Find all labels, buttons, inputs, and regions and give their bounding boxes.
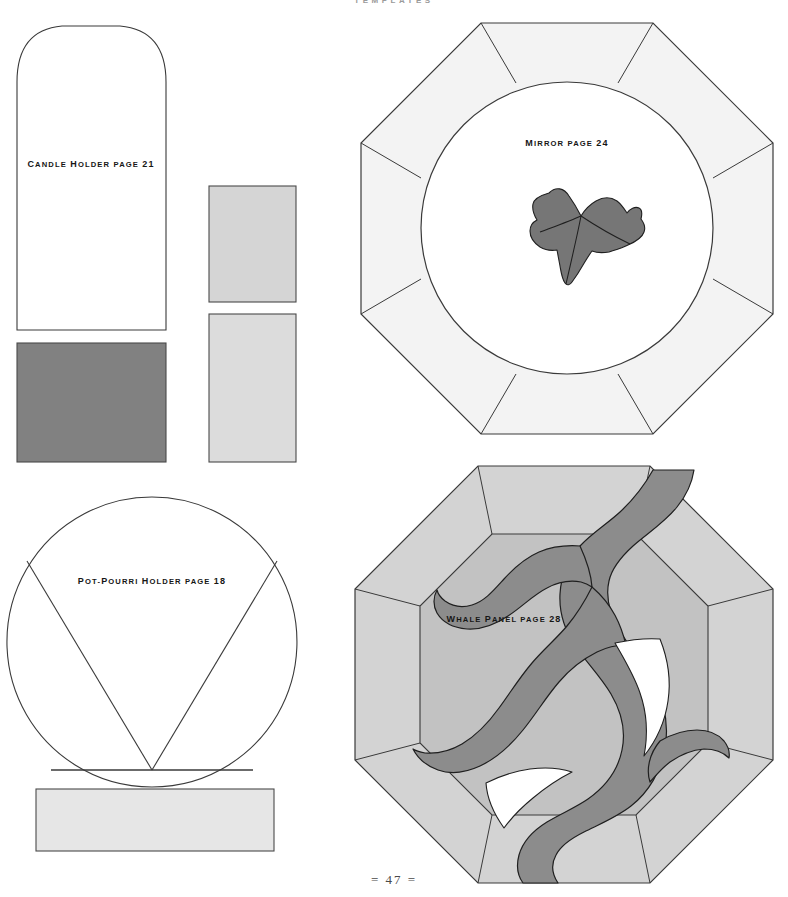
pot-pourri-outline — [7, 497, 297, 787]
template-pot-pourri-holder: POT-POURRI HOLDER PAGE 18 — [7, 497, 297, 851]
template-page: TEMPLATES CANDLE HOLDER PAGE 21 POT-POUR… — [0, 0, 788, 897]
template-mirror: MIRROR PAGE 24 — [361, 23, 773, 434]
candle-piece-dark — [17, 343, 166, 462]
candle-holder-label: CANDLE HOLDER PAGE 21 — [27, 159, 154, 169]
candle-holder-outline — [17, 26, 166, 330]
whale-panel-label: WHALE PANEL PAGE 28 — [447, 614, 562, 624]
template-candle-holder: CANDLE HOLDER PAGE 21 — [17, 26, 296, 462]
page-number: = 47 = — [0, 872, 788, 888]
template-whale-panel: WHALE PANEL PAGE 28 — [355, 466, 773, 883]
pot-pourri-label: POT-POURRI HOLDER PAGE 18 — [78, 576, 226, 586]
mirror-label: MIRROR PAGE 24 — [525, 138, 608, 148]
pot-pourri-base-strip — [36, 789, 274, 851]
candle-piece-light-upper — [209, 186, 296, 302]
candle-piece-light-lower — [209, 314, 296, 462]
template-artwork: CANDLE HOLDER PAGE 21 POT-POURRI HOLDER … — [0, 0, 788, 897]
